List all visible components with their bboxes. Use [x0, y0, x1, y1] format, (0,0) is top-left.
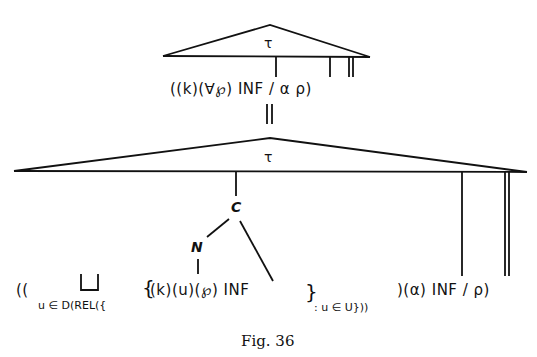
branch-c-to-n [207, 219, 229, 237]
top-root-label: τ [264, 36, 272, 50]
union-symbol-icon [81, 274, 98, 290]
bottom-root-label: τ [264, 150, 272, 164]
set-body: (k)(u)(℘) INF [150, 283, 249, 298]
node-c: C [231, 200, 241, 214]
node-n: N [191, 240, 203, 254]
formula-suffix: )(α) INF / ρ) [397, 283, 490, 298]
union-subscript: u ∈ D(REL({ [38, 300, 106, 311]
formula-prefix: (( [16, 283, 29, 298]
branch-c-to-inf [240, 221, 273, 281]
top-formula: ((k)(∀℘) INF / α ρ) [170, 82, 312, 97]
set-subscript: : u ∈ U})) [314, 302, 368, 313]
set-close-brace: } [305, 282, 318, 302]
figure-caption: Fig. 36 [241, 334, 294, 349]
